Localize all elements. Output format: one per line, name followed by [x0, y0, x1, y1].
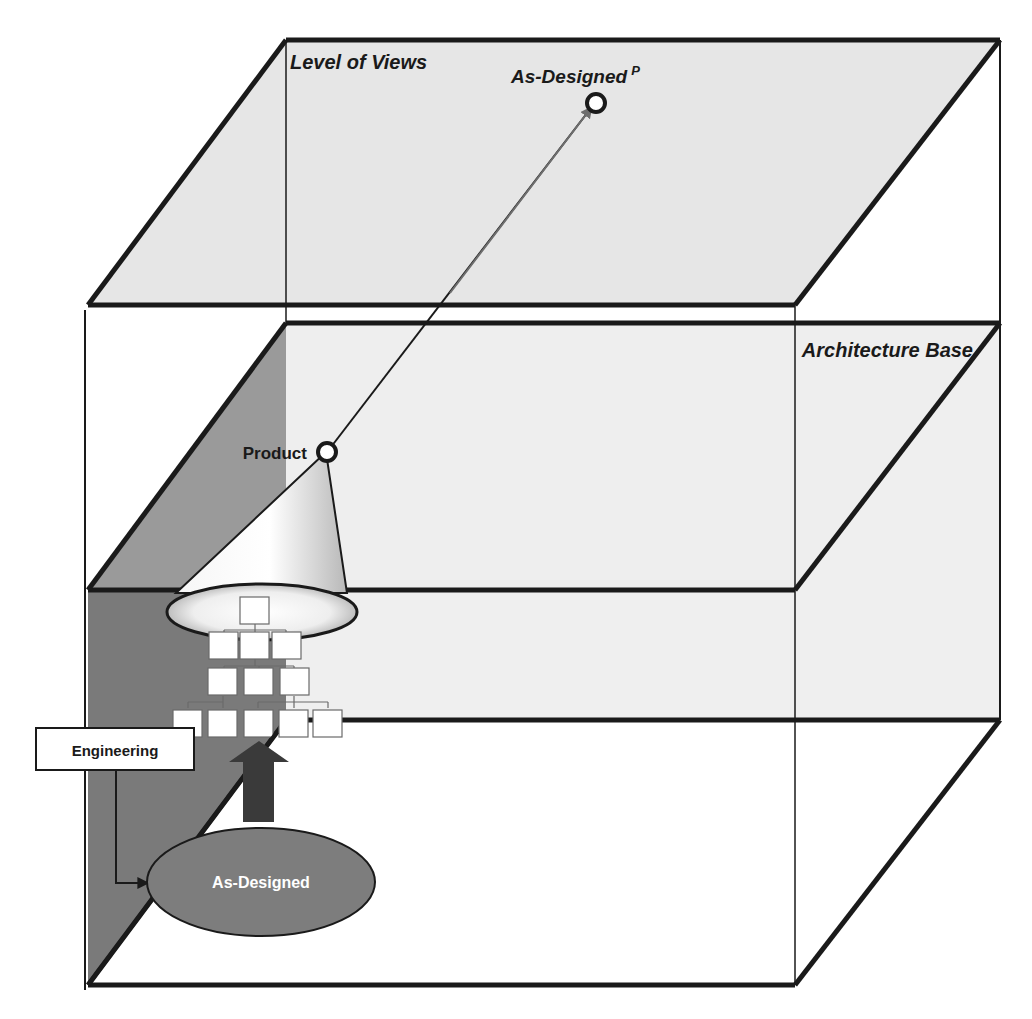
as-designed-label: As-Designed [212, 874, 310, 891]
tree-node [208, 668, 237, 695]
product-label: Product [243, 444, 308, 463]
architecture-base-label: Architecture Base [801, 339, 973, 361]
level-of-views-label: Level of Views [290, 51, 427, 73]
tree-node [209, 632, 238, 659]
engineering-box[interactable]: Engineering [36, 728, 194, 770]
svg-text:As-DesignedP: As-DesignedP [510, 63, 640, 87]
tree-node [244, 710, 273, 737]
as-designed-p-superscript: P [631, 63, 640, 78]
tree-node [240, 597, 269, 624]
engineering-label: Engineering [72, 742, 159, 759]
as-designed-node[interactable]: As-Designed [147, 828, 375, 936]
tree-node [279, 710, 308, 737]
tree-node [208, 710, 237, 737]
tree-node [280, 668, 309, 695]
as-designed-p-label: As-Designed [510, 66, 628, 87]
tree-node [313, 710, 342, 737]
tree-node [240, 632, 269, 659]
product-node[interactable]: Product [243, 443, 336, 463]
tree-node [272, 632, 301, 659]
diagram-canvas: Engineering As-Designed Product As-Desig… [0, 0, 1032, 1019]
tree-node [244, 668, 273, 695]
